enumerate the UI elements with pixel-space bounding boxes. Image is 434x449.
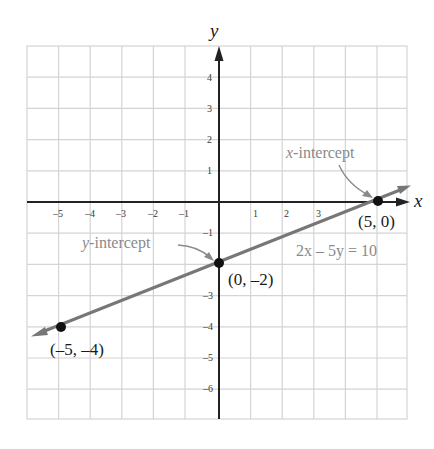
y-tick: 2 [207,134,212,145]
x-axis-arrow-icon [396,198,410,207]
y-axis-label: y [208,20,219,41]
equation-label: 2x – 5y = 10 [296,242,377,260]
point-5-0 [373,196,383,206]
point-label-5-0: (5, 0) [358,212,395,231]
x-tick: –1 [178,208,189,219]
x-tick: 3 [316,208,321,219]
x-axis-label: x [413,190,423,211]
linear-equation-graph: x y –5 –4 –3 –2 –1 1 2 3 4 3 2 1 –1 –3 –… [0,0,434,449]
y-tick: 1 [207,165,212,176]
x-tick: –4 [84,208,95,219]
y-tick: –5 [202,352,213,363]
x-intercept-pointer-arrow [339,165,370,196]
y-tick: –4 [202,321,213,332]
grid-border [27,46,407,419]
x-tick-labels: –5 –4 –3 –2 –1 1 2 3 [52,208,321,219]
x-tick: 1 [253,208,258,219]
x-intercept-arrowhead-icon [362,190,373,198]
line-arrow-left-icon [31,327,48,337]
x-tick: –2 [147,208,158,219]
y-tick: –6 [202,383,213,394]
point-label-0-neg2: (0, –2) [228,270,273,289]
point-label-neg5-neg4: (–5, –4) [50,340,104,359]
point-0-neg2 [214,258,224,268]
y-tick: –1 [202,227,213,238]
y-tick-labels: 4 3 2 1 –1 –3 –4 –5 –6 [202,72,213,394]
x-tick: –3 [115,208,126,219]
x-tick: 2 [284,208,289,219]
y-tick: 3 [207,103,212,114]
y-intercept-label: y-intercept [80,234,151,252]
y-tick: 4 [207,72,212,83]
y-axis-arrow-icon [215,46,224,61]
grid [27,46,407,419]
y-tick: –3 [202,290,213,301]
point-neg5-neg4 [56,322,66,332]
line-arrow-right-icon [397,186,411,195]
x-tick: –5 [52,208,63,219]
x-intercept-label: x-intercept [285,144,355,162]
